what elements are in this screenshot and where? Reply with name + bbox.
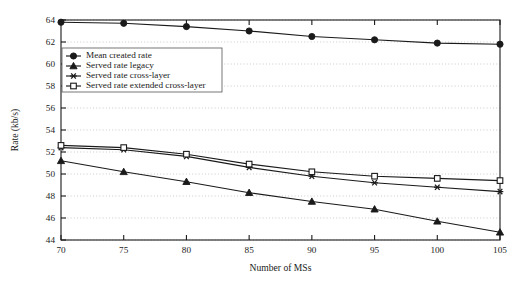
y-tick-label-64: 64 [46,15,56,25]
x-tick-label-95: 95 [370,245,380,255]
series-0 [58,19,503,47]
x-axis-title: Number of MSs [250,262,312,273]
y-axis-tick-labels: 4446485052545658606264 [46,15,56,245]
legend-item-3: Served rate extended cross-layer [66,80,206,90]
data-point-0-4 [309,33,315,39]
chart-figure: 4446485052545658606264 70758085909510010… [0,0,525,283]
series-1 [57,157,503,235]
legend-label-3: Served rate extended cross-layer [86,80,206,90]
data-point-1-0 [57,157,64,163]
x-tick-label-80: 80 [182,245,192,255]
data-point-2-6 [434,185,441,190]
y-tick-label-62: 62 [46,37,56,47]
y-tick-label-48: 48 [46,191,56,201]
y-tick-label-56: 56 [46,103,56,113]
legend-label-1: Served rate legacy [86,60,154,70]
x-tick-label-85: 85 [245,245,255,255]
x-tick-label-100: 100 [430,245,444,255]
data-point-0-6 [434,40,440,46]
series-line-0 [61,22,500,44]
legend-label-2: Served rate cross-layer [86,70,170,80]
data-point-0-0 [58,19,64,25]
legend-marker-square-open [71,83,77,89]
data-point-3-0 [58,143,64,149]
data-point-3-4 [309,169,315,175]
data-point-3-5 [372,173,378,179]
y-tick-label-60: 60 [46,59,56,69]
data-point-0-7 [497,41,503,47]
y-tick-label-58: 58 [46,81,56,91]
y-tick-label-50: 50 [46,169,56,179]
legend-label-0: Mean created rate [86,50,152,60]
data-point-0-3 [246,28,252,34]
data-point-0-5 [371,37,377,43]
series-3 [58,143,503,184]
x-tick-label-70: 70 [56,245,66,255]
data-point-0-2 [183,24,189,30]
x-axis-tick-labels: 707580859095100105 [56,245,507,255]
series-line-2 [61,148,500,192]
data-point-3-7 [497,178,503,184]
y-tick-label-44: 44 [46,235,56,245]
x-tick-label-75: 75 [119,245,129,255]
y-tick-label-46: 46 [46,213,56,223]
y-tick-label-54: 54 [46,125,56,135]
data-point-0-1 [121,20,127,26]
data-point-2-5 [371,180,378,185]
x-tick-label-105: 105 [493,245,507,255]
data-point-3-2 [184,151,190,157]
data-point-3-1 [121,145,127,151]
data-point-3-6 [434,176,440,182]
rate-vs-number-of-ms-line-chart: 4446485052545658606264 70758085909510010… [0,0,525,283]
legend-marker-circle-filled [70,53,76,59]
y-axis-title: Rate (kb/s) [9,109,21,151]
x-tick-label-90: 90 [307,245,317,255]
data-point-3-3 [246,161,252,167]
y-tick-label-52: 52 [46,147,56,157]
chart-legend: Mean created rateServed rate legacyServe… [62,48,222,92]
